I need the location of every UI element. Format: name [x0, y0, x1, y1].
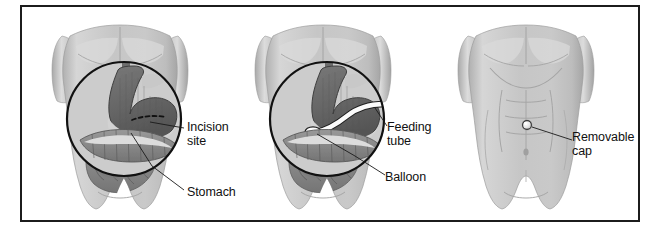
label-balloon: Balloon [385, 171, 426, 185]
figure-root: Incision site Stomach Feeding tube Ballo… [0, 0, 666, 235]
panel-1-illustration [52, 25, 188, 209]
panel-2-illustration [255, 25, 391, 209]
removable-cap-graphic [522, 120, 533, 131]
panel-3-illustration [458, 25, 594, 209]
label-removable-cap: Removable cap [572, 131, 634, 158]
cap-body [523, 121, 532, 130]
label-feeding-tube: Feeding tube [387, 121, 431, 148]
label-stomach: Stomach [187, 186, 236, 200]
illustration-canvas [0, 0, 666, 235]
cap-highlight [524, 122, 527, 125]
label-incision-site: Incision site [187, 121, 229, 148]
navel [523, 148, 528, 155]
